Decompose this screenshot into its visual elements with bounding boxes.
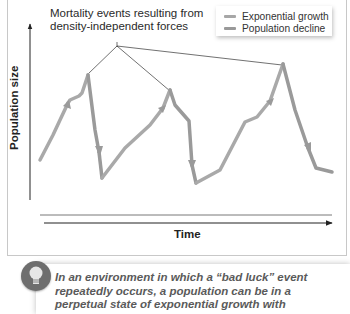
callout-line-2: repeatedly occurs, a population can be i… xyxy=(55,285,337,299)
mortality-annotation: Mortality events resulting from density-… xyxy=(50,7,203,33)
legend-label: Exponential growth xyxy=(242,11,329,22)
y-axis-label: Population size xyxy=(8,66,20,150)
legend-label: Population decline xyxy=(242,23,325,34)
x-axis-label: Time xyxy=(174,228,201,240)
annotation-pointers xyxy=(88,42,282,91)
annotation-line-2: density-independent forces xyxy=(50,20,203,33)
legend: Exponential growth Population decline xyxy=(216,6,332,36)
legend-swatch-growth xyxy=(224,15,236,18)
legend-item-population-decline: Population decline xyxy=(224,22,332,34)
legend-item-exponential-growth: Exponential growth xyxy=(224,10,332,22)
legend-swatch-decline xyxy=(224,27,236,30)
lightbulb-icon xyxy=(21,261,51,291)
annotation-line-1: Mortality events resulting from xyxy=(50,7,203,20)
population-line xyxy=(40,64,332,183)
callout-line-3: perpetual state of exponential growth wi… xyxy=(55,298,337,312)
callout-line-1: In an environment in which a “bad luck” … xyxy=(55,271,337,285)
callout-text: In an environment in which a “bad luck” … xyxy=(55,271,337,312)
